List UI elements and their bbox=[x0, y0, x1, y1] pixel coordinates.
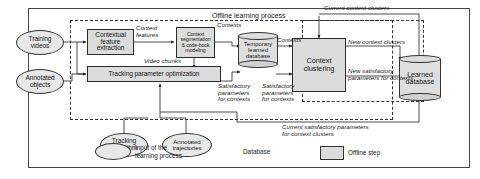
edge-label-context-features: Context features bbox=[136, 25, 158, 38]
current-context-clusters-title: Current context clusters bbox=[324, 5, 389, 12]
database-learned-label: Learned database bbox=[399, 55, 441, 101]
database-temporary-learned-label: Temporary learned database bbox=[238, 32, 278, 68]
legend-ellipse-icon bbox=[95, 143, 131, 160]
edge-label-current-satisfactory-parameters: Current satisfactory parameters for cont… bbox=[282, 124, 369, 137]
legend-input-item: Input of the learning process bbox=[95, 143, 182, 160]
legend-database-label: Database bbox=[243, 148, 270, 155]
offline-learning-process-title: Offline learning process bbox=[212, 12, 285, 19]
process-tracking-parameter-optimization[interactable]: Tracking parameter optimization bbox=[87, 66, 221, 82]
edge-label-satisfactory-parameters-right: Satisfactory parameters for contexts bbox=[262, 83, 294, 103]
legend-database-item: Database bbox=[215, 144, 270, 160]
input-training-videos[interactable]: Training videos bbox=[16, 30, 64, 55]
database-temporary-learned[interactable]: Temporary learned database bbox=[238, 32, 278, 68]
legend-input-label: Input of the learning process bbox=[135, 144, 182, 158]
process-context-clustering[interactable]: Context clustering bbox=[292, 38, 346, 92]
legend-offline-step-item: Offline step bbox=[320, 146, 380, 160]
legend-cylinder-icon bbox=[215, 144, 239, 160]
edge-label-contexts-left: Contexts bbox=[217, 22, 241, 29]
edge-label-satisfactory-parameters-left: Satisfactory parameters for contexts bbox=[218, 83, 250, 103]
input-annotated-objects[interactable]: Annotated objects bbox=[16, 69, 64, 94]
edge-label-new-context-clusters: New context clusters bbox=[348, 39, 405, 46]
edge-label-video-chunks: Video chunks bbox=[144, 58, 181, 65]
process-context-segmentation-codebook[interactable]: Context segmentation & code-book modelin… bbox=[176, 27, 215, 58]
database-learned[interactable]: Learned database bbox=[399, 55, 441, 101]
legend-box-icon bbox=[320, 146, 344, 160]
process-contextual-feature-extraction[interactable]: Contextual feature extraction bbox=[87, 29, 134, 55]
legend-offline-step-label: Offline step bbox=[348, 149, 380, 156]
diagram-canvas: Offline learning process Current context… bbox=[0, 0, 480, 179]
edge-label-contexts-right: Contexts bbox=[277, 37, 301, 44]
